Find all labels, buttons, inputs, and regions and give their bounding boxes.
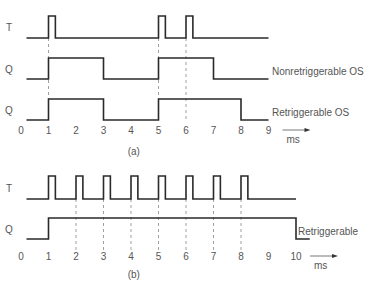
waveform [27, 16, 269, 38]
timing-diagram: TQNonretriggerable OSQRetriggerable OS01… [0, 0, 375, 282]
axis-tick-label: 6 [183, 251, 189, 262]
axis-tick-label: 9 [266, 251, 272, 262]
panel-caption: (a) [128, 146, 140, 157]
signal-label: Q [5, 105, 13, 116]
panel-a-nonretriggerable-vs-retriggerable: TQNonretriggerable OSQRetriggerable OS01… [5, 16, 364, 157]
signal-q: QRetriggerable OS [5, 99, 349, 120]
time-unit-label: ms [314, 260, 327, 271]
waveform [27, 58, 269, 79]
axis-tick-label: 3 [101, 251, 107, 262]
axis-tick-label: 5 [156, 125, 162, 136]
waveform-caption: Nonretriggerable OS [272, 66, 364, 77]
axis-tick-label: 3 [101, 125, 107, 136]
axis-tick-label: 8 [238, 251, 244, 262]
waveform [27, 99, 269, 120]
axis-tick-label: 6 [183, 125, 189, 136]
axis-tick-label: 1 [46, 251, 52, 262]
panel-b-retriggerable: TQRetriggerable012345678910ms(b) [5, 176, 358, 280]
waveform-caption: Retriggerable [298, 226, 358, 237]
axis-tick-label: 1 [46, 125, 52, 136]
axis-tick-label: 2 [73, 125, 79, 136]
axis-tick-label: 8 [238, 125, 244, 136]
axis-tick-label: 5 [156, 251, 162, 262]
arrow-right-icon [332, 254, 338, 258]
axis-tick-label: 0 [18, 251, 24, 262]
waveform-caption: Retriggerable OS [272, 107, 350, 118]
axis-tick-label: 7 [211, 125, 217, 136]
signal-label: T [6, 183, 12, 194]
signal-label: T [6, 22, 12, 33]
time-unit-label: ms [287, 134, 300, 145]
arrow-right-icon [305, 128, 311, 132]
axis-tick-label: 7 [211, 251, 217, 262]
waveform [27, 218, 310, 239]
panel-caption: (b) [128, 269, 140, 280]
waveform [27, 176, 297, 199]
axis-tick-label: 0 [18, 125, 24, 136]
axis-tick-label: 4 [128, 125, 134, 136]
signal-t: T [6, 176, 296, 199]
axis-tick-label: 10 [290, 251, 302, 262]
signal-label: Q [5, 224, 13, 235]
axis-tick-label: 4 [128, 251, 134, 262]
axis-tick-label: 9 [266, 125, 272, 136]
signal-q: QRetriggerable [5, 218, 358, 239]
signal-label: Q [5, 64, 13, 75]
axis-tick-label: 2 [73, 251, 79, 262]
signal-t: T [6, 16, 269, 38]
signal-q: QNonretriggerable OS [5, 58, 364, 79]
